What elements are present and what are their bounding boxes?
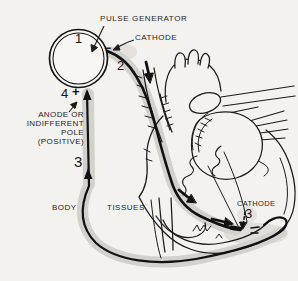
circuit-number-3-apex: 3 <box>245 206 252 221</box>
pulmonary-artery <box>221 86 295 113</box>
anode-label-line2: INDIFFERENT <box>0 119 84 128</box>
circuit-number-3-left: 3 <box>74 153 82 170</box>
figure-canvas: PULSE GENERATOR CATHODE 1 − 2 4 + ANODE … <box>0 0 298 281</box>
descending-vessels <box>151 198 173 258</box>
anode-label-line3: POLE <box>0 128 84 137</box>
anode-label-line1: ANODE OR <box>0 110 84 119</box>
minus-sign: − <box>104 41 111 55</box>
plus-sign: + <box>72 84 80 99</box>
cathode-label-top: CATHODE <box>135 33 177 42</box>
anode-label-line4: (POSITIVE) <box>0 137 84 146</box>
anode-label: ANODE OR INDIFFERENT POLE (POSITIVE) <box>0 110 84 146</box>
body-label: BODY <box>52 203 77 212</box>
circuit-number-4: 4 <box>61 86 68 101</box>
pulse-generator-label: PULSE GENERATOR <box>100 14 187 23</box>
circuit-number-2: 2 <box>117 58 124 73</box>
circuit-number-1: 1 <box>75 31 82 46</box>
left-atrium <box>192 112 263 179</box>
tissues-label: TISSUES <box>107 203 145 212</box>
cathode-label-apex: CATHODE <box>237 199 275 208</box>
